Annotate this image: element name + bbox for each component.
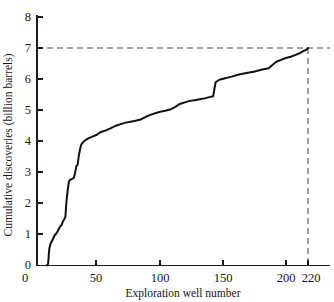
cumulative-discoveries-chart: 8 7 6 5 4 3 2 1 0 0 50 100 150 200 220 E… — [0, 0, 334, 302]
y-tick-label-5: 5 — [25, 103, 31, 117]
x-tick-label-200: 200 — [277, 271, 296, 285]
x-axis-title: Exploration well number — [126, 287, 241, 300]
x-tick-label-220: 220 — [302, 271, 321, 285]
y-tick-label-1: 1 — [25, 227, 31, 241]
y-tick-label-6: 6 — [25, 72, 31, 86]
y-tick-label-3: 3 — [25, 165, 31, 179]
x-axis-tick-labels: 0 50 100 150 200 220 — [22, 271, 321, 285]
y-axis-tick-labels: 8 7 6 5 4 3 2 1 0 — [25, 10, 32, 272]
y-tick-label-8: 8 — [25, 10, 31, 24]
x-tick-label-150: 150 — [214, 271, 233, 285]
cumulative-discoveries-curve — [47, 48, 308, 265]
y-tick-label-0: 0 — [25, 258, 31, 272]
y-axis-title: Cumulative discoveries (billion barrels) — [2, 53, 15, 236]
y-tick-label-7: 7 — [25, 41, 31, 55]
y-axis-ticks — [37, 17, 43, 234]
x-tick-label-0: 0 — [22, 271, 28, 285]
x-tick-label-100: 100 — [151, 271, 170, 285]
axis-spines — [37, 15, 330, 266]
x-tick-label-50: 50 — [90, 271, 103, 285]
chart-canvas: 8 7 6 5 4 3 2 1 0 0 50 100 150 200 220 E… — [0, 0, 334, 302]
y-tick-label-2: 2 — [25, 196, 31, 210]
y-tick-label-4: 4 — [25, 134, 32, 148]
x-axis-ticks — [96, 260, 308, 266]
annotation-guides — [37, 48, 330, 265]
